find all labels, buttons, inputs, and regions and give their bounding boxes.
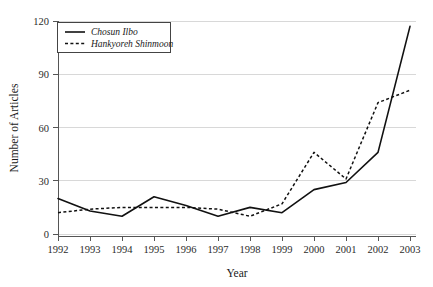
x-tick-label-2003: 2003	[400, 244, 421, 255]
x-tick-label-1995: 1995	[144, 244, 165, 255]
x-axis-title: Year	[226, 267, 247, 279]
y-tick-label-120: 120	[33, 16, 49, 27]
x-tick-label-1998: 1998	[240, 244, 261, 255]
x-tick-label-2001: 2001	[336, 244, 357, 255]
legend-label-chosun-ilbo: Chosun Ilbo	[91, 27, 138, 37]
chart-figure: 120 90 60 30 0 Number of Articles 1992 1…	[0, 0, 433, 287]
y-axis: 120 90 60 30 0	[33, 16, 58, 240]
legend-label-hankyoreh-shinmoon: Hankyoreh Shinmoon	[90, 39, 173, 49]
y-tick-label-0: 0	[44, 229, 49, 240]
x-tick-label-1993: 1993	[80, 244, 101, 255]
series-line-hankyoreh-shinmoon	[58, 90, 410, 216]
series-line-chosun-ilbo	[58, 26, 410, 216]
x-tick-label-1994: 1994	[112, 244, 134, 255]
y-axis-title: Number of Articles	[8, 83, 20, 172]
x-tick-label-1996: 1996	[176, 244, 197, 255]
y-tick-label-60: 60	[39, 123, 50, 134]
chart-legend: Chosun Ilbo Hankyoreh Shinmoon	[58, 23, 174, 53]
x-tick-label-1999: 1999	[272, 244, 293, 255]
x-axis: 1992 1993 1994 1995 1996 1997 1998 1999 …	[48, 236, 421, 255]
x-tick-label-2000: 2000	[304, 244, 325, 255]
y-tick-label-90: 90	[39, 69, 50, 80]
x-tick-label-1997: 1997	[208, 244, 229, 255]
x-tick-label-2002: 2002	[368, 244, 389, 255]
y-tick-label-30: 30	[39, 176, 50, 187]
line-chart-canvas: 120 90 60 30 0 Number of Articles 1992 1…	[0, 0, 433, 287]
x-tick-label-1992: 1992	[48, 244, 69, 255]
